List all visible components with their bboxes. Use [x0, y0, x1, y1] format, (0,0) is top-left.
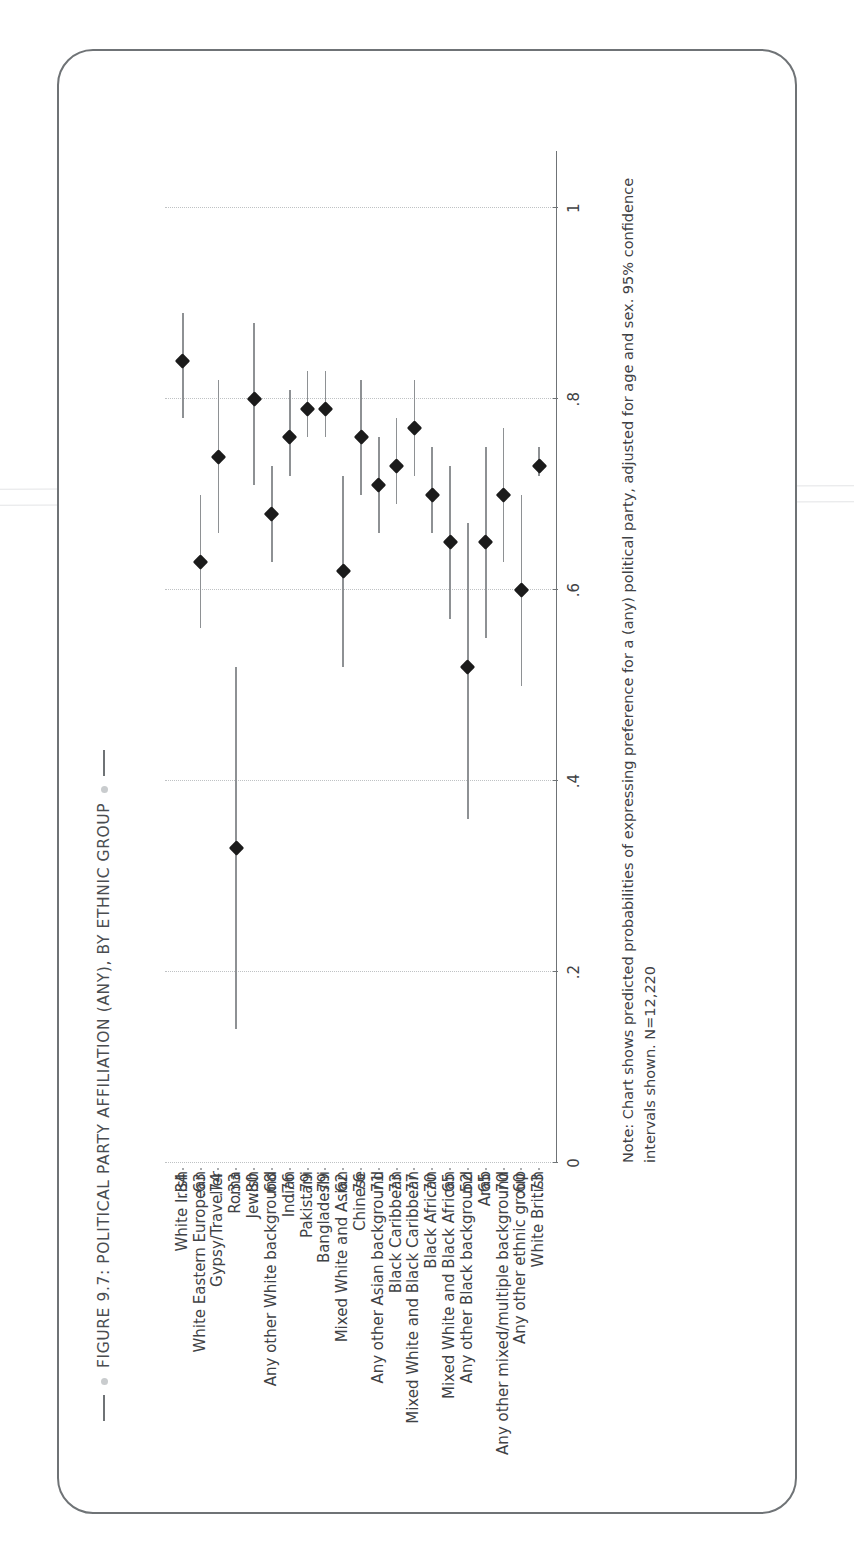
title-rule-end — [103, 750, 105, 776]
value-label: .65 — [476, 1173, 494, 1197]
figure-note: Note: Chart shows predicted probabilitie… — [617, 153, 662, 1163]
data-point-marker[interactable] — [407, 420, 423, 436]
value-label: .79 — [315, 1173, 333, 1197]
value-label: .73 — [387, 1173, 405, 1197]
value-label: .76 — [351, 1173, 369, 1197]
gridline-x — [165, 780, 557, 781]
value-label-dot — [378, 1168, 380, 1170]
value-label-dot — [217, 1168, 219, 1170]
value-label-dot — [289, 1168, 291, 1170]
value-label: .60 — [511, 1173, 529, 1197]
value-label-dot — [307, 1168, 309, 1170]
data-point-marker[interactable] — [193, 554, 209, 570]
value-label-dot — [253, 1168, 255, 1170]
value-label: .65 — [440, 1173, 458, 1197]
data-point-marker[interactable] — [460, 659, 476, 675]
value-label-dot — [431, 1168, 433, 1170]
data-point-marker[interactable] — [442, 535, 458, 551]
figure-title-block: FIGURE 9.7: POLITICAL PARTY AFFILIATION … — [95, 750, 113, 1421]
category-label: Jewish — [244, 1171, 262, 1471]
category-label: Pakistani — [298, 1171, 316, 1471]
gridline-x — [165, 971, 557, 972]
category-label: Any other White background — [262, 1171, 280, 1471]
category-label: Arab — [476, 1171, 494, 1471]
x-axis-tick-label: .8 — [565, 392, 583, 406]
category-label: Gypsy/Traveller — [208, 1171, 226, 1471]
value-label-dot — [413, 1168, 415, 1170]
data-point-marker[interactable] — [389, 458, 405, 474]
category-label: Mixed White and Black African — [440, 1171, 458, 1471]
data-point-marker[interactable] — [335, 563, 351, 579]
data-point-marker[interactable] — [514, 582, 530, 598]
data-point-marker[interactable] — [371, 477, 387, 493]
x-axis-tick — [553, 398, 558, 399]
value-label-dot — [360, 1168, 362, 1170]
category-label: Any other mixed/multiple background — [494, 1171, 512, 1471]
x-axis-tick-label: 1 — [565, 204, 583, 214]
category-label: Bangladeshi — [315, 1171, 333, 1471]
gridline-x — [165, 1162, 557, 1163]
chart-plot-area: 0.2.4.6.81 — [165, 151, 557, 1163]
value-label: .71 — [369, 1173, 387, 1197]
value-label: .68 — [262, 1173, 280, 1197]
value-label-dot — [538, 1168, 540, 1170]
category-label: Black African — [422, 1171, 440, 1471]
value-label: .79 — [298, 1173, 316, 1197]
page-title: FIGURE 9.7: POLITICAL PARTY AFFILIATION … — [95, 803, 113, 1368]
value-label-dot — [200, 1168, 202, 1170]
x-axis-tick — [553, 207, 558, 208]
value-label: .33 — [226, 1173, 244, 1197]
value-label-dot — [520, 1168, 522, 1170]
value-label-dot — [271, 1168, 273, 1170]
data-point-marker[interactable] — [228, 840, 244, 856]
x-axis-tick-label: .2 — [565, 965, 583, 979]
value-label: .62 — [333, 1173, 351, 1197]
gridline-x — [165, 589, 557, 590]
value-label: .77 — [404, 1173, 422, 1197]
data-point-marker[interactable] — [300, 401, 316, 417]
data-point-marker[interactable] — [318, 401, 334, 417]
data-point-marker[interactable] — [496, 487, 512, 503]
category-label: Mixed White and Black Caribbean — [404, 1171, 422, 1471]
data-point-marker[interactable] — [246, 391, 262, 407]
value-label: .84 — [173, 1173, 191, 1197]
value-label: .73 — [529, 1173, 547, 1197]
value-label-dot — [324, 1168, 326, 1170]
value-label: .80 — [244, 1173, 262, 1197]
x-axis-tick — [553, 589, 558, 590]
value-label-dot — [485, 1168, 487, 1170]
value-label-dot — [503, 1168, 505, 1170]
x-axis-tick-label: .6 — [565, 583, 583, 597]
data-point-marker[interactable] — [264, 506, 280, 522]
category-label: White British — [529, 1171, 547, 1471]
data-point-marker[interactable] — [478, 535, 494, 551]
category-label: White Irish — [173, 1171, 191, 1471]
value-label: .74 — [208, 1173, 226, 1197]
value-label-dot — [182, 1168, 184, 1170]
value-label-dot — [396, 1168, 398, 1170]
value-label: .76 — [280, 1173, 298, 1197]
x-axis-tick — [553, 1162, 558, 1163]
category-label: Indian — [280, 1171, 298, 1471]
category-label: Any other Asian background — [369, 1171, 387, 1471]
data-point-marker[interactable] — [175, 353, 191, 369]
category-label: Mixed White and Asian — [333, 1171, 351, 1471]
category-label: Any other Black background — [458, 1171, 476, 1471]
title-bullet-icon — [101, 1378, 108, 1385]
data-point-marker[interactable] — [424, 487, 440, 503]
value-label-dot — [449, 1168, 451, 1170]
title-bullet-end-icon — [101, 786, 108, 793]
value-label: .63 — [191, 1173, 209, 1197]
x-axis-tick — [553, 780, 558, 781]
data-point-marker[interactable] — [282, 430, 298, 446]
x-axis-tick-label: .4 — [565, 774, 583, 788]
category-label: White Eastern European — [191, 1171, 209, 1471]
value-label-dot — [467, 1168, 469, 1170]
data-point-marker[interactable] — [211, 449, 227, 465]
data-point-marker[interactable] — [353, 430, 369, 446]
value-label-dot — [342, 1168, 344, 1170]
title-rule — [103, 1395, 105, 1421]
category-label: Any other ethnic group — [511, 1171, 529, 1471]
data-point-marker[interactable] — [531, 458, 547, 474]
x-axis-tick — [553, 971, 558, 972]
